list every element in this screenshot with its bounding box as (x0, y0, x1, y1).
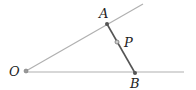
label-P: P (123, 35, 133, 50)
point-P (115, 40, 119, 44)
point-B (133, 71, 137, 75)
label-O: O (9, 64, 20, 79)
label-A: A (98, 6, 108, 21)
point-O (24, 69, 28, 73)
label-B: B (129, 76, 140, 90)
point-A (105, 22, 109, 26)
geometry-diagram: O A P B (0, 0, 196, 90)
